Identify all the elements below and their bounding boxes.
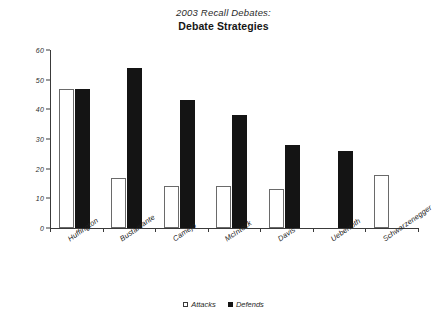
bar-groups <box>50 50 418 228</box>
x-tick-mark <box>155 228 156 232</box>
legend-swatch-defends-icon <box>228 302 233 307</box>
legend-swatch-attacks-icon <box>183 302 188 307</box>
x-tick-mark <box>365 228 366 232</box>
y-tick-label: 10 <box>22 195 44 202</box>
bar-attacks <box>269 189 284 228</box>
bar-group <box>103 50 156 228</box>
bar-defends <box>127 68 142 228</box>
legend-item-attacks: Attacks <box>183 300 216 309</box>
bar-attacks <box>111 178 126 228</box>
y-tick-label: 40 <box>22 106 44 113</box>
chart-title-line2: Debate Strategies <box>0 19 447 33</box>
bar-defends <box>75 89 90 228</box>
bar-attacks <box>164 186 179 228</box>
bar-defends <box>180 100 195 228</box>
bar-group <box>50 50 103 228</box>
bar-group <box>208 50 261 228</box>
bar-attacks <box>374 175 389 228</box>
bar-defends <box>338 151 353 228</box>
bar-group <box>313 50 366 228</box>
y-tick-label: 60 <box>22 47 44 54</box>
x-tick-mark <box>260 228 261 232</box>
bar-group <box>155 50 208 228</box>
bar-attacks <box>59 89 74 228</box>
x-tick-mark <box>50 228 51 232</box>
y-tick-label: 0 <box>22 225 44 232</box>
x-tick-mark <box>208 228 209 232</box>
chart-title: 2003 Recall Debates: Debate Strategies <box>0 6 447 33</box>
chart-legend: Attacks Defends <box>0 300 447 309</box>
chart-title-line1: 2003 Recall Debates: <box>0 6 447 19</box>
legend-label-defends: Defends <box>236 300 264 309</box>
legend-label-attacks: Attacks <box>191 300 216 309</box>
x-tick-mark <box>418 228 419 232</box>
y-tick-label: 50 <box>22 76 44 83</box>
x-tick-mark <box>313 228 314 232</box>
x-axis-line <box>50 228 418 229</box>
y-tick-label: 20 <box>22 165 44 172</box>
bar-defends <box>285 145 300 228</box>
x-tick-mark <box>103 228 104 232</box>
bar-group <box>365 50 418 228</box>
y-tick-label: 30 <box>22 136 44 143</box>
bar-group <box>260 50 313 228</box>
legend-item-defends: Defends <box>228 300 264 309</box>
chart-figure: 2003 Recall Debates: Debate Strategies #… <box>0 0 447 334</box>
bar-defends <box>232 115 247 228</box>
bar-attacks <box>216 186 231 228</box>
